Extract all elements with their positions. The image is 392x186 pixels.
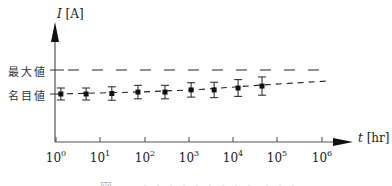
data-point <box>258 77 266 95</box>
figure-caption: 図 ━━ ・・・・・・・・・ ・・・ <box>100 178 300 186</box>
x-tick-label-5: 105 <box>267 149 287 165</box>
x-tick-label-4: 104 <box>223 149 243 165</box>
data-point <box>82 88 90 100</box>
x-ticks <box>56 137 322 142</box>
x-tick-label-1: 101 <box>90 149 110 165</box>
y-axis-unit: [A] <box>62 7 84 21</box>
nominal-value-label: 名目値 <box>8 87 47 103</box>
x-tick-label-6: 106 <box>312 149 332 165</box>
square-marker-icon <box>236 86 241 91</box>
square-marker-icon <box>259 84 264 89</box>
data-series <box>57 77 266 100</box>
x-tick-label-0: 100 <box>46 149 66 165</box>
square-marker-icon <box>162 90 167 95</box>
data-point <box>210 82 218 97</box>
square-marker-icon <box>84 92 89 97</box>
square-marker-icon <box>189 87 194 92</box>
square-marker-icon <box>135 90 140 95</box>
data-point <box>234 80 242 97</box>
square-marker-icon <box>58 92 63 97</box>
data-point <box>161 85 169 98</box>
y-axis-label: I [A] <box>57 7 84 21</box>
square-marker-icon <box>109 91 114 96</box>
y-axis-arrow-icon <box>51 22 59 42</box>
x-axis-label: t [hr] <box>358 131 389 145</box>
x-axis-unit: [hr] <box>363 131 390 145</box>
data-point <box>108 87 116 100</box>
x-axis-arrow-icon <box>333 138 353 146</box>
max-value-label: 最大値 <box>8 63 47 79</box>
x-tick-label-3: 103 <box>179 149 199 165</box>
x-tick-label-2: 102 <box>135 149 155 165</box>
square-marker-icon <box>212 87 217 92</box>
